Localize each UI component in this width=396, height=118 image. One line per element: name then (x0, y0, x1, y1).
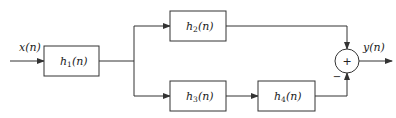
block-h2-label: h2(n) (186, 20, 214, 34)
block-h4: h4(n) (258, 81, 315, 111)
block-diagram: x(n) h1(n) h2(n) h3(n) h4(n) + − (0, 0, 396, 118)
plus-sign: + (342, 55, 351, 68)
input-label: x(n) (19, 41, 41, 54)
block-h1-label: h1(n) (60, 55, 88, 69)
input-signal: x(n) (10, 41, 44, 61)
minus-sign: − (333, 71, 341, 82)
output-signal: y(n) (359, 41, 392, 61)
block-h3: h3(n) (170, 81, 226, 111)
arrow-h2-to-summer (226, 26, 347, 49)
summing-junction: + − (333, 49, 359, 82)
block-h1: h1(n) (44, 46, 99, 76)
block-h4-label: h4(n) (274, 90, 302, 104)
block-h2: h2(n) (170, 11, 226, 41)
block-h3-label: h3(n) (186, 90, 214, 104)
branch-lines (99, 26, 170, 96)
output-label: y(n) (362, 41, 385, 54)
arrow-h4-to-summer (315, 73, 347, 96)
